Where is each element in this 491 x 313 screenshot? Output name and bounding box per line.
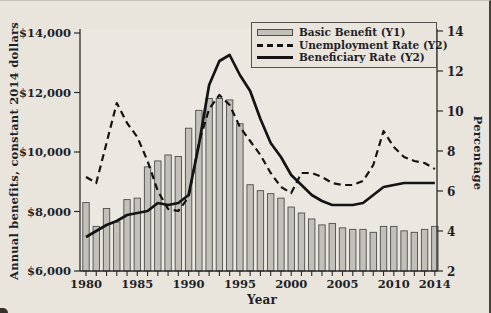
bar-1990 <box>185 128 191 271</box>
bar-1995 <box>237 124 243 271</box>
bar-1987 <box>155 161 161 271</box>
x-tick-label: 2014 <box>419 277 451 291</box>
left-tick-label: $14,000 <box>19 26 71 40</box>
legend-label: Unemployment Rate (Y2) <box>299 40 448 51</box>
x-tick-label: 1985 <box>121 277 153 291</box>
bar-1983 <box>114 222 120 271</box>
bar-1986 <box>144 167 150 271</box>
bar-1992 <box>206 98 212 271</box>
legend-item-unemployment-rate: Unemployment Rate (Y2) <box>257 40 431 51</box>
x-tick-label: 1980 <box>70 277 102 291</box>
bar-2012 <box>411 232 417 271</box>
x-tick-label: 2010 <box>378 277 410 291</box>
bar-1993 <box>216 98 222 271</box>
right-tick-label: 6 <box>447 185 455 199</box>
bar-2003 <box>319 225 325 271</box>
bar-1996 <box>247 185 253 271</box>
bar-2002 <box>309 219 315 271</box>
right-tick-label: 10 <box>447 105 464 119</box>
bar-1984 <box>124 200 130 271</box>
right-tick-label: 4 <box>447 225 455 239</box>
left-tick-label: $6,000 <box>27 264 71 278</box>
legend-label: Beneficiary Rate (Y2) <box>299 52 425 63</box>
legend-item-beneficiary-rate: Beneficiary Rate (Y2) <box>257 52 431 63</box>
bar-1994 <box>226 100 232 271</box>
left-tick-label: $8,000 <box>27 205 71 219</box>
bar-1989 <box>175 156 181 271</box>
bar-2008 <box>370 232 376 271</box>
bar-2011 <box>401 231 407 271</box>
bar-1988 <box>165 155 171 271</box>
solid-line-swatch-icon <box>257 56 293 59</box>
bar-1999 <box>278 198 284 271</box>
bar-2006 <box>350 229 356 271</box>
left-tick-label: $10,000 <box>19 145 71 159</box>
bar-2001 <box>298 213 304 271</box>
bar-2013 <box>421 229 427 271</box>
bar-1982 <box>103 209 109 271</box>
bar-2000 <box>288 207 294 271</box>
x-tick-label: 1995 <box>224 277 256 291</box>
left-tick-label: $12,000 <box>19 86 71 100</box>
right-tick-label: 12 <box>447 65 464 79</box>
right-axis-title: Percentage <box>471 116 485 191</box>
bar-1985 <box>134 198 140 271</box>
x-axis-title: Year <box>247 293 277 307</box>
bar-2007 <box>360 229 366 271</box>
legend-label: Basic Benefit (Y1) <box>299 27 405 38</box>
x-tick-label: 1990 <box>173 277 205 291</box>
right-tick-label: 14 <box>447 25 464 39</box>
bar-2010 <box>391 226 397 271</box>
x-tick-label: 2000 <box>275 277 307 291</box>
bar-2005 <box>339 228 345 271</box>
left-axis-title: Annual benefits, constant 2014 dollars <box>7 22 21 280</box>
x-tick-label: 2005 <box>326 277 358 291</box>
legend-item-basic-benefit: Basic Benefit (Y1) <box>257 27 431 38</box>
bar-1997 <box>257 191 263 271</box>
chart-figure: $6,000$8,000$10,000$12,000$14,0002468101… <box>0 1 489 313</box>
bar-2004 <box>329 223 335 271</box>
legend-box: Basic Benefit (Y1) Unemployment Rate (Y2… <box>251 22 437 68</box>
bar-2009 <box>380 226 386 271</box>
bar-swatch-icon <box>257 29 293 36</box>
bar-1998 <box>267 194 273 271</box>
dashed-line-swatch-icon <box>257 44 293 47</box>
scan-artifact <box>0 308 8 313</box>
right-tick-label: 8 <box>447 145 455 159</box>
